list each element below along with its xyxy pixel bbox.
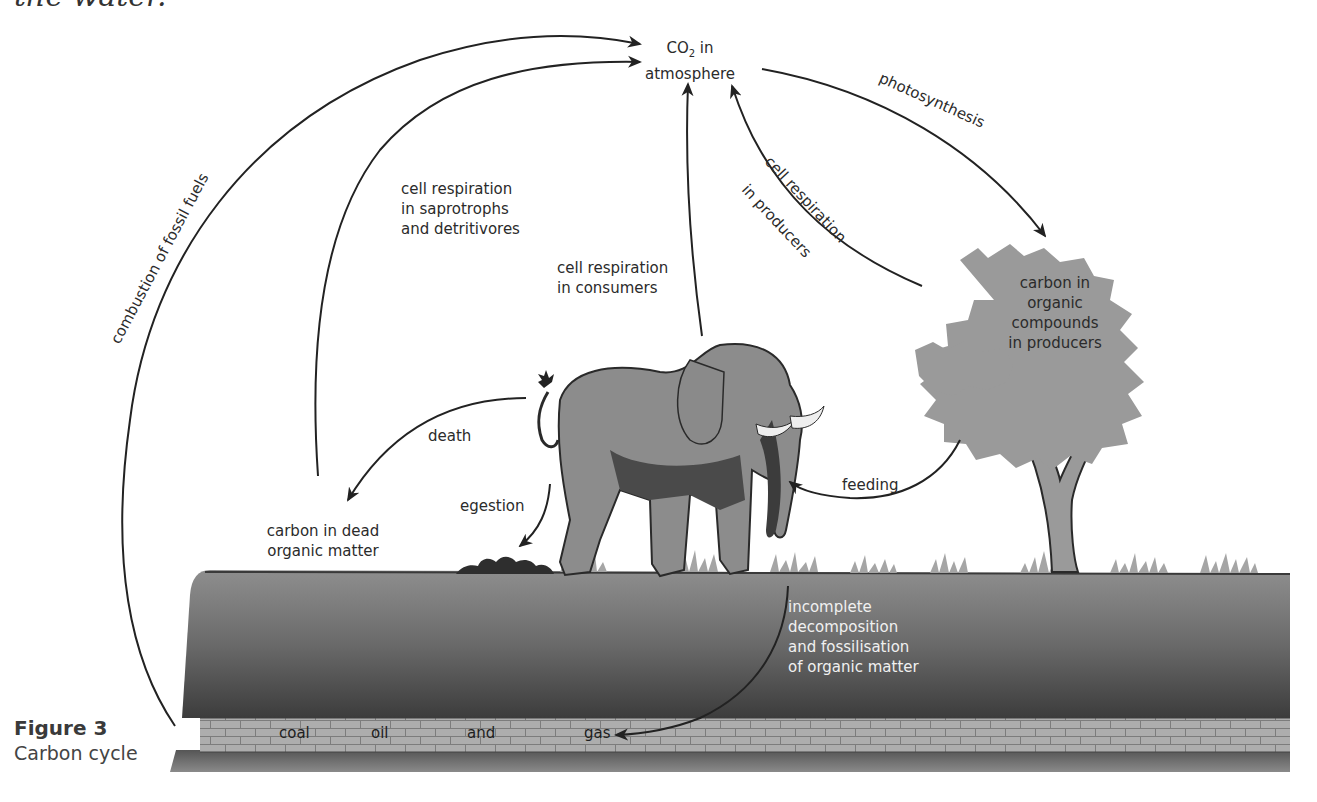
carbon-cycle-diagram: the water. <box>0 0 1317 802</box>
diagram-graphics <box>0 0 1317 802</box>
label-resp-saprotrophs: cell respiration in saprotrophs and detr… <box>401 179 520 239</box>
producers-line-2: organic <box>990 293 1120 313</box>
label-fossilisation: incomplete decomposition and fossilisati… <box>788 597 919 677</box>
co2-in-text: in <box>695 39 713 57</box>
node-co2-atmosphere: CO2 in atmosphere <box>642 38 738 84</box>
dead-matter-line-2: organic matter <box>258 541 388 561</box>
elephant <box>538 344 824 576</box>
fossilisation-line-2: decomposition <box>788 617 919 637</box>
fossil-word-oil: oil <box>371 724 389 742</box>
dead-matter-line-1: carbon in dead <box>258 521 388 541</box>
saprotrophs-line-1: cell respiration <box>401 179 520 199</box>
dung-pile <box>456 557 554 574</box>
consumers-line-2: in consumers <box>557 278 668 298</box>
fossilisation-line-3: and fossilisation <box>788 637 919 657</box>
label-death: death <box>428 426 471 446</box>
saprotrophs-line-3: and detritivores <box>401 219 520 239</box>
producers-line-4: in producers <box>990 333 1120 353</box>
producers-line-1: carbon in <box>990 273 1120 293</box>
fossilisation-line-1: incomplete <box>788 597 919 617</box>
node-carbon-in-dead-matter: carbon in dead organic matter <box>258 521 388 561</box>
fossilisation-line-4: of organic matter <box>788 657 919 677</box>
ground-layers <box>170 570 1290 772</box>
atmosphere-text: atmosphere <box>645 65 735 83</box>
figure-number: Figure 3 <box>14 716 107 740</box>
fossil-word-coal: coal <box>279 724 310 742</box>
label-egestion: egestion <box>460 496 525 516</box>
node-carbon-in-producers: carbon in organic compounds in producers <box>990 273 1120 353</box>
fossil-word-and: and <box>467 724 495 742</box>
fossil-word-gas: gas <box>584 724 611 742</box>
producers-line-3: compounds <box>990 313 1120 333</box>
consumers-line-1: cell respiration <box>557 258 668 278</box>
co2-text: CO <box>666 39 688 57</box>
label-feeding: feeding <box>842 475 898 495</box>
label-resp-consumers: cell respiration in consumers <box>557 258 668 298</box>
saprotrophs-line-2: in saprotrophs <box>401 199 520 219</box>
figure-caption: Carbon cycle <box>14 742 138 764</box>
